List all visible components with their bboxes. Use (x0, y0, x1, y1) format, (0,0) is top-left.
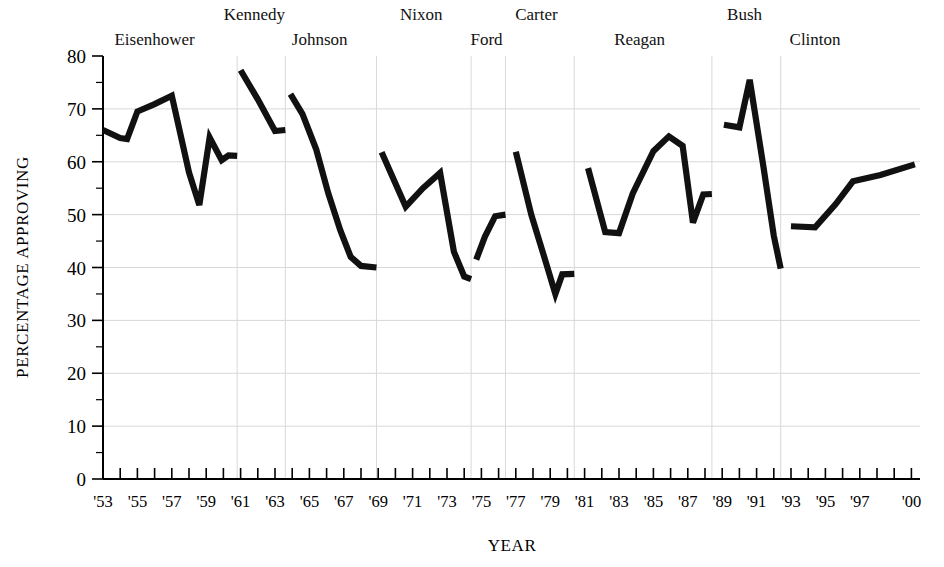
x-tick-label-00: '00 (902, 492, 921, 511)
x-tick-label-53: '53 (93, 492, 112, 511)
chart-svg: 01020304050607080 '53'55'57'59'61'63'65'… (0, 0, 944, 567)
x-axis-title: YEAR (488, 536, 537, 555)
y-tick-label-0: 0 (77, 469, 87, 490)
y-axis-ticks (92, 56, 103, 479)
approval-segment-carter (516, 152, 574, 294)
x-tick-label-77: '77 (506, 492, 525, 511)
x-tick-label-83: '83 (609, 492, 628, 511)
y-tick-label-70: 70 (67, 99, 86, 120)
president-label-ford: Ford (470, 30, 503, 49)
approval-segment-clinton (791, 164, 915, 227)
president-label-reagan: Reagan (614, 30, 665, 49)
president-label-johnson: Johnson (292, 30, 348, 49)
x-tick-label-95: '95 (816, 492, 835, 511)
x-tick-label-71: '71 (403, 492, 422, 511)
x-axis-ticks (103, 468, 911, 479)
x-tick-label-93: '93 (781, 492, 800, 511)
y-tick-label-60: 60 (67, 152, 86, 173)
y-tick-label-50: 50 (67, 205, 86, 226)
president-annotations: EisenhowerKennedyJohnsonNixonFordCarterR… (114, 5, 841, 49)
president-label-clinton: Clinton (790, 30, 842, 49)
approval-segment-nixon (382, 152, 471, 279)
approval-line-series (103, 70, 915, 294)
approval-segment-eisenhower (103, 96, 237, 205)
x-tick-label-81: '81 (575, 492, 594, 511)
approval-segment-ford (476, 215, 505, 260)
y-tick-label-10: 10 (67, 416, 86, 437)
x-tick-label-61: '61 (231, 492, 250, 511)
president-label-eisenhower: Eisenhower (114, 30, 195, 49)
x-tick-label-97: '97 (850, 492, 869, 511)
x-tick-label-75: '75 (472, 492, 491, 511)
x-tick-label-57: '57 (162, 492, 181, 511)
x-tick-label-59: '59 (196, 492, 215, 511)
president-label-nixon: Nixon (400, 5, 443, 24)
president-label-kennedy: Kennedy (224, 5, 286, 24)
y-tick-label-20: 20 (67, 363, 86, 384)
x-tick-label-85: '85 (644, 492, 663, 511)
y-axis-tick-labels: 01020304050607080 (67, 46, 86, 490)
x-tick-label-91: '91 (747, 492, 766, 511)
x-tick-label-63: '63 (265, 492, 284, 511)
y-tick-label-30: 30 (67, 310, 86, 331)
x-tick-label-67: '67 (334, 492, 353, 511)
y-axis-title: PERCENTAGE APPROVING (13, 156, 32, 378)
x-tick-label-79: '79 (540, 492, 559, 511)
approval-segment-bush (724, 80, 781, 269)
x-tick-label-55: '55 (128, 492, 147, 511)
x-tick-label-89: '89 (712, 492, 731, 511)
approval-segment-johnson (290, 94, 376, 267)
president-label-carter: Carter (515, 5, 558, 24)
x-tick-label-87: '87 (678, 492, 697, 511)
x-tick-label-69: '69 (368, 492, 387, 511)
approval-rating-chart: 01020304050607080 '53'55'57'59'61'63'65'… (0, 0, 944, 567)
y-tick-label-40: 40 (67, 258, 86, 279)
approval-segment-reagan (588, 136, 712, 233)
x-axis-tick-labels: '53'55'57'59'61'63'65'67'69'71'73'75'77'… (93, 492, 921, 511)
president-label-bush: Bush (727, 5, 762, 24)
x-tick-label-65: '65 (300, 492, 319, 511)
y-tick-label-80: 80 (67, 46, 86, 67)
x-tick-label-73: '73 (437, 492, 456, 511)
approval-segment-kennedy (241, 70, 286, 131)
